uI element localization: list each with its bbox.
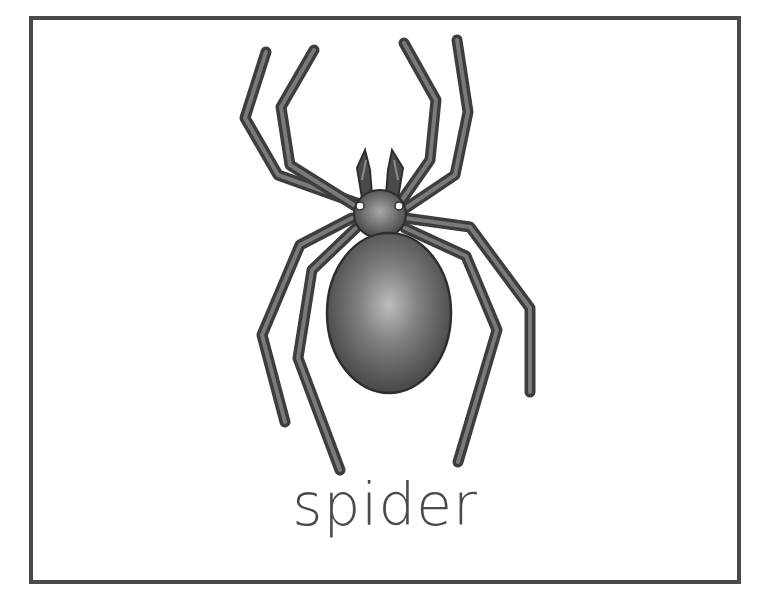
card-caption: spider: [0, 476, 770, 534]
spider-eye-right: [395, 202, 403, 210]
spider-abdomen: [327, 233, 451, 393]
spider-head: [354, 190, 406, 238]
leg-upper-left-inner: [281, 50, 365, 212]
spider-eye-left: [356, 202, 364, 210]
